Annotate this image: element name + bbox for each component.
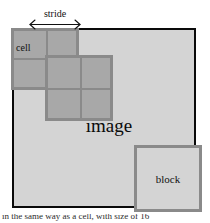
cell-label: cell bbox=[16, 43, 30, 53]
caption-clipped: in the same way as a cell, with size of … bbox=[0, 214, 210, 223]
block-label: block bbox=[137, 174, 199, 185]
block-rectangle: block bbox=[134, 145, 202, 212]
cell-grid-b bbox=[45, 55, 113, 121]
stride-double-arrow-icon bbox=[28, 18, 82, 30]
cell-grid-b-horizontal-divider bbox=[48, 88, 110, 90]
stride-annotation: stride bbox=[28, 8, 82, 30]
caption-text: in the same way as a cell, with size of … bbox=[2, 214, 149, 221]
figure-canvas: image cell stride block in the same way … bbox=[0, 0, 210, 223]
